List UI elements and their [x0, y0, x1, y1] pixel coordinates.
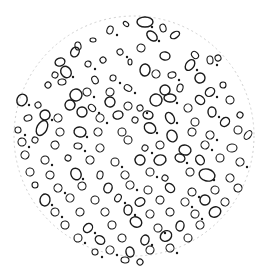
particle-dot	[101, 256, 103, 258]
particle-dot	[201, 218, 203, 220]
particle	[136, 258, 144, 266]
particle-dot	[134, 214, 136, 216]
particle-dot	[178, 79, 180, 81]
particle-dot	[196, 69, 198, 71]
particle-dot	[82, 178, 84, 180]
particle-dot	[94, 232, 96, 234]
particle-dot	[176, 252, 178, 254]
particle-dot	[156, 132, 158, 134]
particle-dot	[93, 96, 95, 98]
particle-dot	[121, 166, 123, 168]
microscope-field-image	[0, 0, 268, 272]
particle-dot	[61, 216, 63, 218]
particle-dot	[216, 96, 218, 98]
particle-dot	[84, 242, 86, 244]
particle-dot	[134, 92, 136, 94]
particle-dot	[211, 149, 213, 151]
particle-dot	[84, 150, 86, 152]
particle-dot	[116, 254, 118, 256]
particle-dot	[64, 192, 66, 194]
particle-dot	[146, 112, 148, 114]
particle-dot	[246, 166, 248, 168]
particle-dot	[158, 40, 160, 42]
particle-dot	[218, 116, 220, 118]
particle-dot	[126, 56, 128, 58]
particle-dot	[136, 189, 138, 191]
particle-dot	[24, 134, 26, 136]
particle-dot	[51, 204, 53, 206]
particle-dot	[51, 119, 53, 121]
particle-dot	[186, 162, 188, 164]
particle-dot	[28, 104, 30, 106]
particle-dot	[164, 232, 166, 234]
particle-dot	[86, 136, 88, 138]
particle-dot	[106, 122, 108, 124]
particle-dot	[28, 146, 30, 148]
particle-dot	[191, 206, 193, 208]
particle-dot	[213, 179, 215, 181]
particle	[92, 249, 99, 256]
field-of-view-circle	[14, 16, 254, 256]
particle-dot	[216, 64, 218, 66]
particle-dot	[124, 202, 126, 204]
particle-dot	[119, 82, 121, 84]
particle-dot	[116, 34, 118, 36]
particle-dot	[176, 122, 178, 124]
particle-dot	[216, 139, 218, 141]
particle-dot	[72, 76, 74, 78]
particle-dot	[156, 176, 158, 178]
particle	[121, 257, 130, 264]
particle-dot	[176, 102, 178, 104]
particle-dot	[94, 68, 96, 70]
particle-dot	[151, 152, 153, 154]
particle-dot	[51, 164, 53, 166]
particle-dot	[151, 26, 153, 28]
